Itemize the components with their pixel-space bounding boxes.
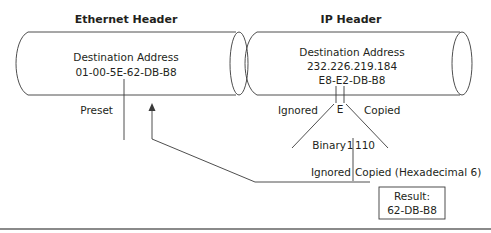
bottom-divider — [0, 228, 491, 230]
binary-copied-label: Copied (Hexadecimal 6) — [355, 166, 481, 178]
ip-header-title: IP Header — [321, 13, 382, 26]
ip-copied-label: Copied — [364, 104, 400, 116]
ethernet-header-title: Ethernet Header — [75, 13, 178, 26]
binary-bit-left: 1 — [347, 139, 354, 151]
multicast-mapping-diagram: Ethernet Header IP Header Destination Ad… — [0, 0, 491, 233]
ip-ignored-label: Ignored — [278, 104, 318, 116]
ip-hex-address: E8-E2-DB-B8 — [319, 74, 386, 86]
arrow-head-icon — [149, 103, 156, 111]
result-label: Result: — [394, 190, 430, 202]
binary-bits-right: 110 — [355, 139, 375, 151]
result-value: 62-DB-B8 — [387, 204, 437, 216]
ethernet-mac-address: 01-00-5E-62-DB-B8 — [75, 66, 176, 78]
binary-prefix: Binary — [312, 139, 346, 151]
ethernet-header-cylinder — [16, 32, 248, 95]
result-box: Result: 62-DB-B8 — [379, 187, 445, 219]
ip-field-label: Destination Address — [299, 46, 404, 58]
ip-dotted-address: 232.226.219.184 — [307, 60, 397, 72]
binary-ignored-label: Ignored — [311, 166, 351, 178]
ethernet-field-label: Destination Address — [73, 51, 178, 63]
preset-label: Preset — [80, 104, 113, 116]
nibble-e-label: E — [337, 103, 344, 115]
